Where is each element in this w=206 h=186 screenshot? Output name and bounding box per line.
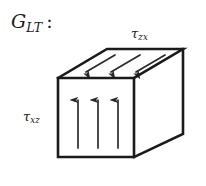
shear-modulus-figure: GLT: τzx τxz bbox=[0, 0, 206, 186]
tau-xz-label: τxz bbox=[23, 110, 40, 125]
front-face bbox=[58, 78, 134, 157]
cuboid-faces bbox=[58, 49, 183, 157]
modulus-symbol: G bbox=[11, 10, 26, 32]
modulus-colon: : bbox=[46, 10, 52, 32]
tau-xz-subscript: xz bbox=[30, 115, 40, 125]
tau-zx-subscript: zx bbox=[138, 32, 148, 42]
tau-zx-label: τzx bbox=[131, 27, 148, 42]
shear-modulus-label: GLT: bbox=[11, 12, 53, 34]
modulus-subscript: LT bbox=[26, 20, 42, 35]
